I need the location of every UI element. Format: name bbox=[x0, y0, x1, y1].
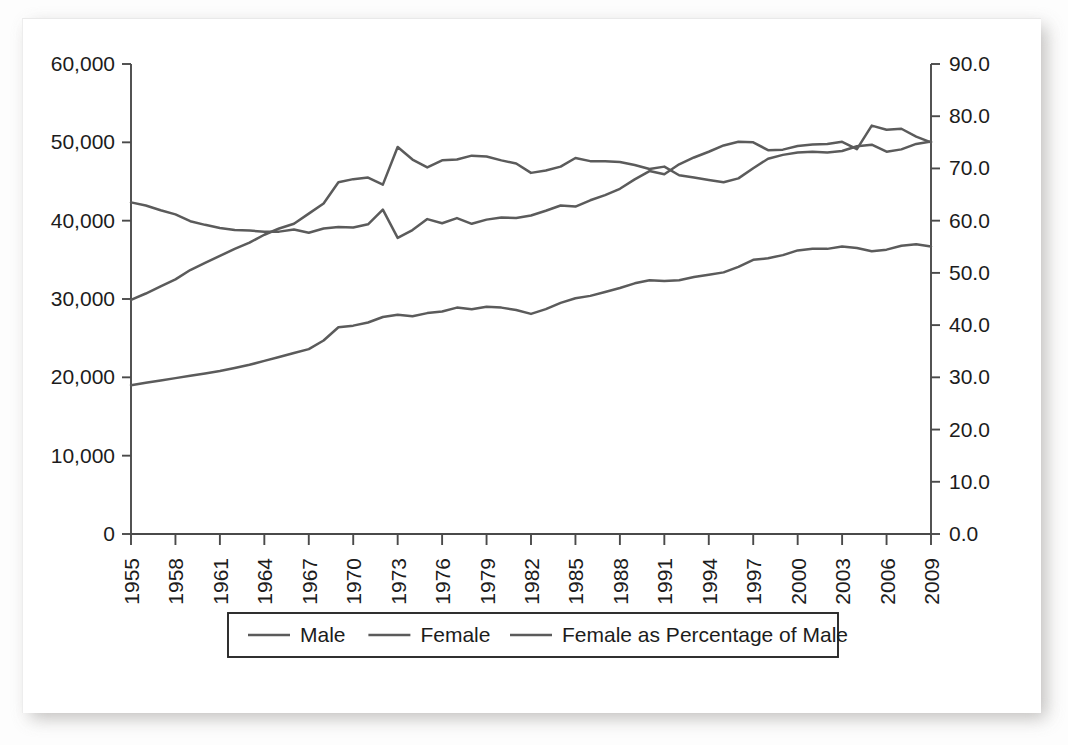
left-axis-tick-label: 0 bbox=[103, 522, 115, 545]
series-line-0 bbox=[131, 142, 931, 300]
right-axis-tick-label: 10.0 bbox=[949, 470, 990, 493]
figure-root: 010,00020,00030,00040,00050,00060,0000.0… bbox=[0, 0, 1068, 745]
bottom-axis-tick-label: 1994 bbox=[698, 558, 721, 605]
right-axis-tick-label: 30.0 bbox=[949, 365, 990, 388]
right-axis-tick-label: 70.0 bbox=[949, 156, 990, 179]
bottom-axis-tick-label: 1979 bbox=[476, 558, 499, 605]
left-axis-tick-label: 10,000 bbox=[51, 444, 115, 467]
bottom-axis-tick-label: 1988 bbox=[609, 558, 632, 605]
right-axis-tick-label: 80.0 bbox=[949, 104, 990, 127]
right-axis-tick-label: 40.0 bbox=[949, 313, 990, 336]
bottom-axis-tick-label: 1961 bbox=[209, 558, 232, 605]
right-axis-tick-label: 0.0 bbox=[949, 522, 978, 545]
right-axis-tick-label: 60.0 bbox=[949, 209, 990, 232]
bottom-axis-tick-label: 1970 bbox=[342, 558, 365, 605]
legend-label-1: Female bbox=[420, 623, 490, 646]
right-axis-tick-label: 50.0 bbox=[949, 261, 990, 284]
bottom-axis-tick-label: 1958 bbox=[164, 558, 187, 605]
bottom-axis-tick-label: 1973 bbox=[387, 558, 410, 605]
legend-label-2: Female as Percentage of Male bbox=[562, 623, 848, 646]
figure-page: 010,00020,00030,00040,00050,00060,0000.0… bbox=[22, 18, 1041, 713]
left-axis-tick-label: 40,000 bbox=[51, 209, 115, 232]
left-axis-tick-label: 20,000 bbox=[51, 365, 115, 388]
right-axis-tick-label: 90.0 bbox=[949, 52, 990, 75]
legend-label-0: Male bbox=[300, 623, 346, 646]
left-axis-tick-label: 50,000 bbox=[51, 130, 115, 153]
series-line-1 bbox=[131, 244, 931, 385]
bottom-axis-tick-label: 1967 bbox=[298, 558, 321, 605]
bottom-axis-tick-label: 1985 bbox=[564, 558, 587, 605]
plot-area: 010,00020,00030,00040,00050,00060,0000.0… bbox=[23, 19, 1041, 713]
bottom-axis-tick-label: 2009 bbox=[920, 558, 943, 605]
bottom-axis-tick-label: 1976 bbox=[431, 558, 454, 605]
bottom-axis-tick-label: 2000 bbox=[787, 558, 810, 605]
bottom-axis-tick-label: 1955 bbox=[120, 558, 143, 605]
left-axis-tick-label: 30,000 bbox=[51, 287, 115, 310]
bottom-axis-tick-label: 1964 bbox=[253, 558, 276, 605]
bottom-axis-tick-label: 1982 bbox=[520, 558, 543, 605]
right-axis-tick-label: 20.0 bbox=[949, 418, 990, 441]
bottom-axis-tick-label: 2003 bbox=[831, 558, 854, 605]
bottom-axis-tick-label: 1991 bbox=[653, 558, 676, 605]
left-axis-tick-label: 60,000 bbox=[51, 52, 115, 75]
line-chart: 010,00020,00030,00040,00050,00060,0000.0… bbox=[23, 19, 1041, 713]
bottom-axis-tick-label: 1997 bbox=[742, 558, 765, 605]
bottom-axis-tick-label: 2006 bbox=[876, 558, 899, 605]
series-line-2 bbox=[131, 126, 931, 238]
